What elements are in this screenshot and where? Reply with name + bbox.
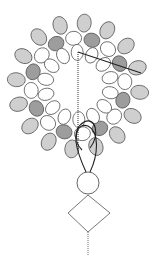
beadwork-diagram: [0, 0, 156, 269]
bead: [65, 31, 82, 46]
bead: [117, 73, 132, 90]
bead: [71, 44, 83, 60]
bead: [76, 13, 92, 32]
bead: [127, 58, 148, 77]
bead: [12, 46, 34, 67]
bead: [19, 115, 42, 137]
bead: [26, 98, 46, 119]
round-bead: [77, 172, 99, 194]
bead: [54, 123, 73, 141]
bead: [37, 87, 55, 103]
bead: [101, 70, 119, 86]
bead: [8, 95, 29, 114]
bead: [121, 105, 143, 126]
bead: [115, 35, 138, 57]
bead: [130, 84, 149, 100]
bead: [106, 124, 128, 147]
bead: [23, 82, 38, 99]
bead: [51, 15, 70, 36]
bead: [28, 26, 50, 49]
diamond-bead: [68, 195, 110, 232]
bead: [7, 72, 26, 88]
bead: [38, 130, 59, 152]
bead: [82, 31, 101, 49]
bead: [97, 19, 118, 41]
